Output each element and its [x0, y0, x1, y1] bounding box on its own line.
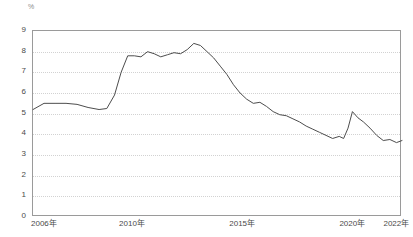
y-axis-tick-label-8: 8: [6, 47, 26, 55]
y-axis-tick-label-7: 7: [6, 67, 26, 75]
y-axis-tick-label-1: 1: [6, 191, 26, 199]
y-axis-tick-label-2: 2: [6, 171, 26, 179]
y-axis-tick-label-4: 4: [6, 129, 26, 137]
y-axis-unit-label: %: [28, 2, 34, 11]
x-axis-tick-label-3: 2020年: [339, 219, 365, 228]
y-axis-tick-label-6: 6: [6, 88, 26, 96]
y-axis-tick-label-5: 5: [6, 109, 26, 117]
y-axis-tick-label-3: 3: [6, 150, 26, 158]
y-axis-tick-label-9: 9: [6, 26, 26, 34]
series-line-path: [33, 43, 402, 142]
x-axis-tick-label-2: 2015年: [229, 219, 255, 228]
x-axis-tick-label-1: 2010年: [119, 219, 145, 228]
unemployment-rate-line-series: [33, 31, 402, 217]
x-axis-tick-label-4: 2022年: [383, 219, 409, 228]
plot-area: [32, 30, 401, 216]
y-axis-tick-label-0: 0: [6, 212, 26, 220]
x-axis-tick-label-0: 2006年: [31, 219, 57, 228]
chart-container: % 01234567892006年2010年2015年2020年2022年: [0, 0, 413, 237]
